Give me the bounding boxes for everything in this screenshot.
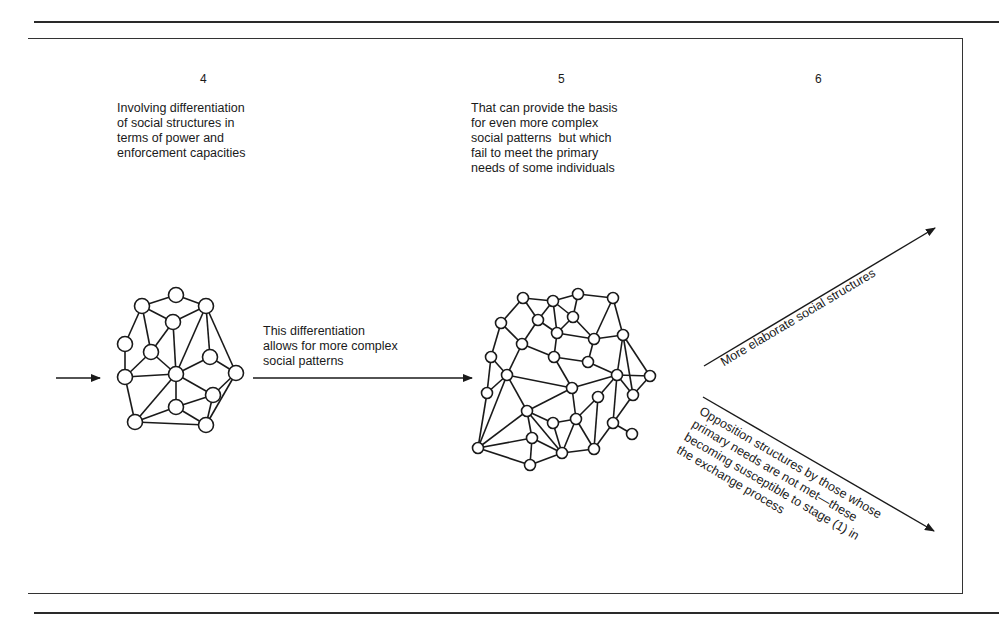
network-node [571, 414, 582, 425]
network-node [522, 406, 533, 417]
network-node [589, 444, 600, 455]
network-node [118, 370, 133, 385]
network-node [199, 418, 214, 433]
network-node [593, 392, 604, 403]
network-node [166, 315, 181, 330]
network-node [128, 415, 143, 430]
network-node [552, 328, 563, 339]
network-node [589, 334, 600, 345]
network-node [627, 429, 638, 440]
network-node [203, 350, 218, 365]
network-node [618, 330, 629, 341]
network-node [568, 312, 579, 323]
network-node [169, 288, 184, 303]
network-node [645, 371, 656, 382]
network-node [612, 370, 623, 381]
network-node [473, 443, 484, 454]
network-node [486, 352, 497, 363]
network-node [518, 293, 529, 304]
network-node [608, 418, 619, 429]
network-node [573, 289, 584, 300]
network-node [169, 400, 184, 415]
simple-network-icon [118, 288, 244, 433]
network-node [525, 460, 536, 471]
network-node [502, 370, 513, 381]
network-node [583, 357, 594, 368]
complex-network-icon [473, 289, 656, 471]
network-node [496, 318, 507, 329]
network-node [527, 433, 538, 444]
network-node [517, 339, 528, 350]
network-node [482, 388, 493, 399]
network-node [533, 315, 544, 326]
network-node [557, 448, 568, 459]
network-node [548, 296, 559, 307]
network-node [549, 352, 560, 363]
network-node [118, 337, 133, 352]
network-node [567, 383, 578, 394]
network-node [548, 418, 559, 429]
network-node [206, 388, 221, 403]
network-node [628, 390, 639, 401]
network-node [169, 367, 184, 382]
network-node [229, 366, 244, 381]
network-node [608, 293, 619, 304]
network-node [199, 299, 214, 314]
network-node [144, 345, 159, 360]
network-node [135, 299, 150, 314]
